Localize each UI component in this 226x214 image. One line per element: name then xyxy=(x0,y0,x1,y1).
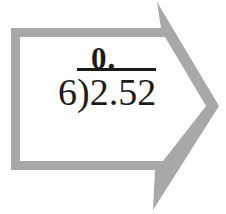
division-bracket-group: )2.52 xyxy=(77,68,156,113)
divisor: 6 xyxy=(58,71,77,113)
long-division-problem: 0. 6)2.52 xyxy=(58,43,156,111)
division-bracket-icon: ) xyxy=(77,71,90,113)
dividend: 2.52 xyxy=(90,71,157,113)
worksheet-canvas: 0. 6)2.52 xyxy=(0,0,226,214)
division-expression: 6)2.52 xyxy=(58,73,156,111)
